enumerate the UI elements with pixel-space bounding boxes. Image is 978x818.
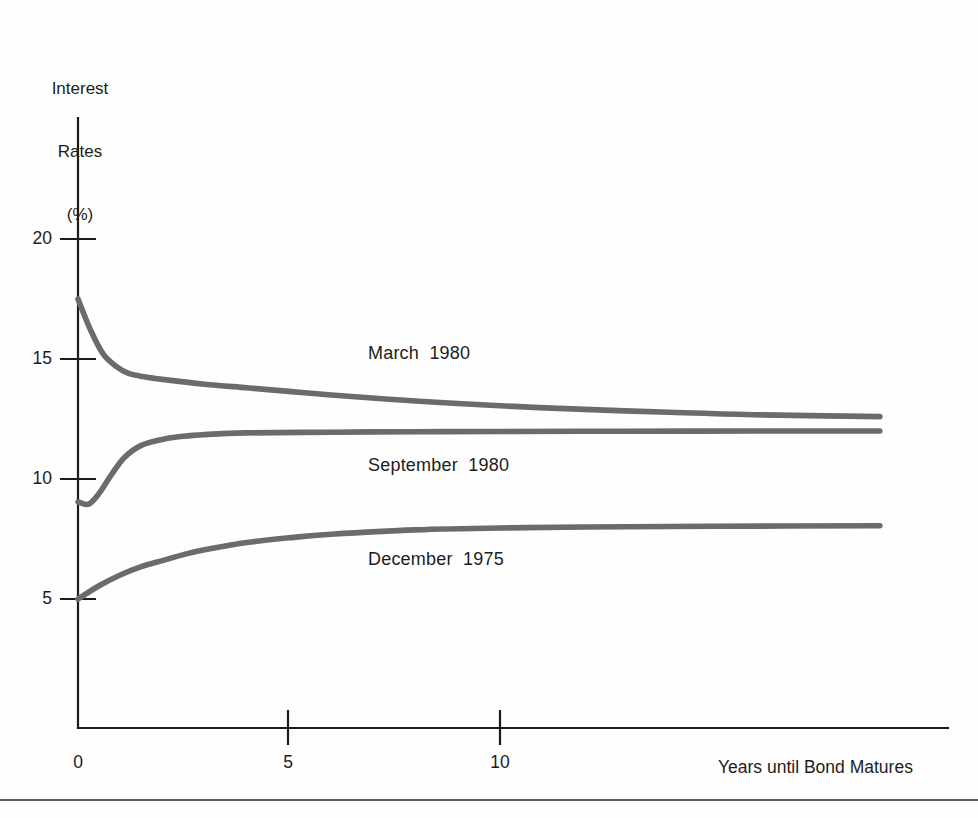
y-axis-title-line-3: (%) (24, 204, 136, 225)
x-tick-label-5: 5 (268, 752, 308, 773)
y-axis-title-line-1: Interest (24, 78, 136, 99)
y-axis-title-line-2: Rates (24, 141, 136, 162)
y-tick-label-10: 10 (0, 468, 52, 489)
y-tick-label-5: 5 (0, 588, 52, 609)
series-label-march-1980: March 1980 (368, 343, 470, 364)
chart-canvas (0, 0, 978, 818)
y-tick-label-20: 20 (0, 228, 52, 249)
series-label-september-1980: September 1980 (368, 455, 509, 476)
y-tick-label-15: 15 (0, 348, 52, 369)
series-label-december-1975: December 1975 (368, 549, 504, 570)
x-axis-title: Years until Bond Matures (718, 757, 913, 778)
x-tick-label-10: 10 (480, 752, 520, 773)
chart-figure: Interest Rates (%) 20 15 10 5 0 5 10 Yea… (0, 0, 978, 818)
series-line-march-1980 (78, 299, 880, 417)
x-tick-label-0: 0 (58, 752, 98, 773)
